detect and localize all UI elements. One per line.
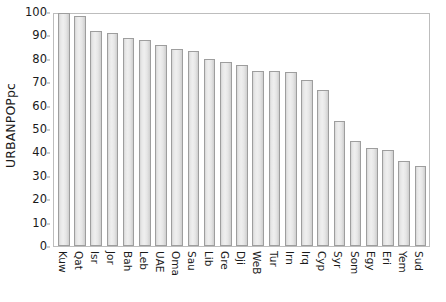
x-tick-label: Sud [412,249,426,302]
x-tick-label: Qat [72,249,86,302]
bar [252,71,264,247]
bar [188,51,200,246]
x-tick-label-text: Gre [220,251,231,270]
bar [90,31,102,246]
x-tick-label-text: Cyp [317,251,328,271]
bar [139,40,151,246]
x-tick-label-text: Syr [333,251,344,268]
y-tick-label: 90 [32,31,47,43]
bar [415,166,427,246]
x-tick-label: Kuw [56,249,70,302]
x-tick-label: Jor [104,249,118,302]
x-tick-label-text: Lib [203,251,214,266]
y-tick-mark [47,223,50,224]
x-tick-label-text: Yem [398,251,409,273]
bar [171,49,183,246]
bar [301,80,313,246]
x-tick-label: Irn [283,249,297,302]
x-tick-label-text: Eri [382,251,393,265]
x-tick-label: Tur [267,249,281,302]
bar [350,141,362,246]
y-tick-mark [47,200,50,201]
x-tick-label-text: Oma [171,251,182,276]
x-tick-label-text: Som [349,251,360,274]
y-tick-mark [47,36,50,37]
plot-area [53,13,430,247]
bar [285,72,297,246]
x-axis-line [53,246,430,247]
bar [74,16,86,246]
y-tick-mark [47,13,50,14]
y-axis-title: URBANPOPpc [0,0,22,250]
y-tick-mark [47,106,50,107]
x-tick-label: Yem [396,249,410,302]
x-tick-label: Sau [185,249,199,302]
bar [107,33,119,246]
y-tick-label: 10 [32,218,47,230]
bar [398,161,410,246]
x-tick-label: Gre [218,249,232,302]
bar [236,65,248,246]
x-tick-label-text: Jor [106,251,117,265]
x-tick-label: Egy [364,249,378,302]
bar [382,150,394,246]
y-axis-title-text: URBANPOPpc [4,82,19,167]
y-tick-label: 60 [32,101,47,113]
x-tick-label-text: Kuw [57,251,68,273]
x-tick-label: WeB [250,249,264,302]
y-axis-tick-labels: 0102030405060708090100 [22,0,50,302]
x-tick-label: Oma [169,249,183,302]
x-tick-label-text: Sud [414,251,425,271]
x-tick-label: Bah [121,249,135,302]
x-tick-label-text: Leb [139,251,150,270]
bar [366,148,378,246]
x-tick-label: Dji [234,249,248,302]
x-tick-label-text: Dji [236,251,247,265]
y-tick-label: 30 [32,171,47,183]
bar [123,38,135,246]
y-tick-label: 40 [32,148,47,160]
x-tick-label-text: Sau [187,251,198,271]
x-tick-label: Cyp [315,249,329,302]
x-tick-label-text: Egy [366,251,377,271]
x-tick-label: Irq [299,249,313,302]
x-tick-label: Syr [331,249,345,302]
x-tick-label: Leb [137,249,151,302]
x-tick-label: Eri [380,249,394,302]
x-tick-label-text: Isr [90,251,101,264]
y-tick-mark [47,153,50,154]
y-tick-label: 70 [32,77,47,89]
y-tick-mark [47,130,50,131]
x-tick-label-text: Tur [268,251,279,267]
y-tick-label: 0 [40,241,47,253]
bar [58,13,70,246]
x-tick-label: Lib [202,249,216,302]
x-tick-label: UAE [153,249,167,302]
x-tick-label-text: WeB [252,251,263,274]
y-tick-label: 50 [32,124,47,136]
bar [334,121,346,246]
y-tick-mark [47,247,50,248]
x-tick-label-text: Qat [74,251,85,270]
bars-layer [54,14,429,246]
bar [155,45,167,246]
x-tick-label-text: UAE [155,251,166,273]
y-tick-label: 100 [25,7,47,19]
x-axis-tick-labels: KuwQatIsrJorBahLebUAEOmaSauLibGreDjiWeBT… [53,249,430,302]
bar [204,59,216,246]
x-tick-label: Som [348,249,362,302]
x-tick-label-text: Irn [284,251,295,265]
y-tick-mark [47,176,50,177]
bar-chart: URBANPOPpc 0102030405060708090100 KuwQat… [0,0,446,302]
y-tick-mark [47,59,50,60]
x-tick-label-text: Irq [301,251,312,265]
y-tick-label: 20 [32,194,47,206]
x-tick-label: Isr [88,249,102,302]
x-tick-label-text: Bah [122,251,133,271]
bar [269,71,281,247]
bar [220,62,232,246]
bar [317,90,329,246]
y-tick-mark [47,83,50,84]
y-tick-label: 80 [32,54,47,66]
